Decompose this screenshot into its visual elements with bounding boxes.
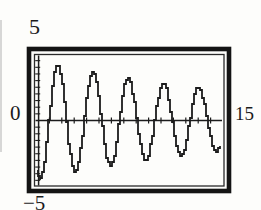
window-ymin-label: −5 [23, 193, 45, 210]
damped-oscillation-curve [38, 66, 220, 180]
window-ymax-label: 5 [29, 16, 40, 38]
window-xmax-label: 15 [235, 104, 254, 123]
calculator-graph-figure: 5 0 15 −5 [0, 0, 261, 210]
window-origin-label: 0 [10, 103, 21, 124]
